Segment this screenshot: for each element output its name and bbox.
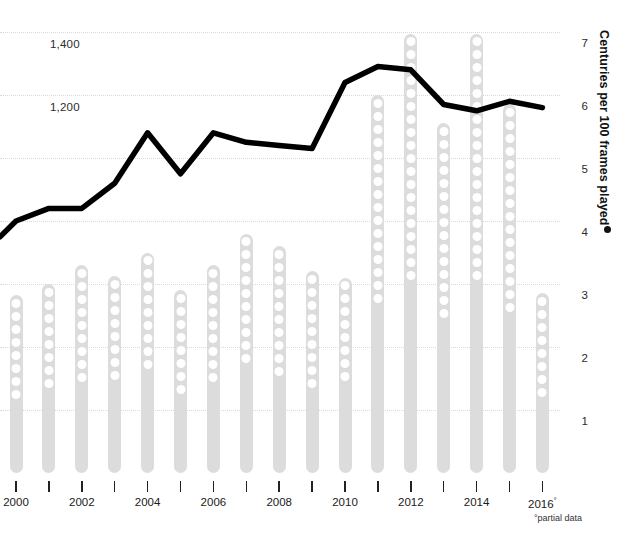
bar-dot (406, 193, 415, 202)
bar-dot (472, 193, 481, 202)
bar-dot (373, 99, 382, 108)
x-tick-2002 (81, 481, 83, 492)
bar-dot (538, 336, 547, 345)
bar-dot (77, 269, 86, 278)
bar-dot (406, 128, 415, 137)
bar-2008 (273, 246, 286, 473)
bar-dot (308, 366, 317, 375)
bar-dot (373, 125, 382, 134)
bar-dot (538, 349, 547, 358)
bar-dot (44, 314, 53, 323)
bar-dot (12, 325, 21, 334)
bar-2015 (503, 104, 516, 473)
bar-dot (472, 128, 481, 137)
bar-dot (505, 160, 514, 169)
x-tick-2007 (246, 481, 248, 492)
bar-dot (110, 293, 119, 302)
bar-dot (406, 167, 415, 176)
bar-dot (373, 255, 382, 264)
x-tick-2000 (15, 481, 17, 492)
bar-dot (275, 263, 284, 272)
bar-dot (472, 219, 481, 228)
bar-dot (472, 258, 481, 267)
bar-dot (176, 333, 185, 342)
bar-dot (341, 320, 350, 329)
bar-dot (472, 63, 481, 72)
bar-dot (242, 289, 251, 298)
bar-dot (242, 354, 251, 363)
bar-dot (12, 390, 21, 399)
bar-dot (308, 288, 317, 297)
bar-dot (275, 289, 284, 298)
plot-area: 1,400 1,200 1234567 Centuries per 100 fr… (0, 0, 640, 541)
bar-dot (242, 341, 251, 350)
bar-dot (12, 364, 21, 373)
bar-dot (439, 309, 448, 318)
x-tick-2014 (476, 481, 478, 492)
x-axis-label-2006: 2006 (201, 496, 227, 508)
bar-dot (209, 321, 218, 330)
bar-2011 (371, 95, 384, 473)
bar-dot (143, 347, 152, 356)
bar-2006 (207, 265, 220, 473)
bar-dot (308, 353, 317, 362)
bar-dot (275, 328, 284, 337)
bar-dot (176, 346, 185, 355)
x-axis-label-2000: 2000 (3, 496, 29, 508)
bar-dot (275, 315, 284, 324)
x-axis-label-2016: 2016° (528, 496, 557, 510)
bar-dot (538, 323, 547, 332)
bar-dot (143, 295, 152, 304)
bar-dot (406, 102, 415, 111)
bar-dot (406, 258, 415, 267)
bar-dot (406, 232, 415, 241)
bar-dot (341, 294, 350, 303)
bar-dot (110, 319, 119, 328)
bar-dot (505, 134, 514, 143)
x-tick-2008 (278, 481, 280, 492)
bar-dot (406, 154, 415, 163)
bar-dot (439, 127, 448, 136)
bar-dot (406, 89, 415, 98)
bar-dot (505, 121, 514, 130)
bar-dot (341, 281, 350, 290)
bar-dot (439, 270, 448, 279)
x-tick-2010 (344, 481, 346, 492)
bar-dot (242, 328, 251, 337)
bar-dot (472, 245, 481, 254)
x-tick-2004 (147, 481, 149, 492)
bar-2014 (470, 34, 483, 473)
bar-dot (176, 385, 185, 394)
bar-dot (373, 294, 382, 303)
bar-dot (406, 180, 415, 189)
bar-dot (406, 50, 415, 59)
bar-dot (439, 231, 448, 240)
bar-dot (505, 238, 514, 247)
bar-2000 (10, 295, 23, 473)
bar-dot (209, 282, 218, 291)
bar-dot (341, 372, 350, 381)
bar-dot (209, 334, 218, 343)
bar-dot (12, 299, 21, 308)
bar-dot (505, 147, 514, 156)
bar-dot (341, 359, 350, 368)
bar-2001 (42, 284, 55, 473)
bar-dot (505, 212, 514, 221)
bar-dot (373, 138, 382, 147)
bar-2013 (437, 123, 450, 473)
bar-dot (143, 256, 152, 265)
bar-dot (472, 102, 481, 111)
bar-dot (472, 232, 481, 241)
x-axis-label-2008: 2008 (266, 496, 292, 508)
bar-dot (242, 315, 251, 324)
bar-dot (77, 295, 86, 304)
bar-dot (439, 166, 448, 175)
bar-dot (209, 373, 218, 382)
bar-dot (12, 338, 21, 347)
bar-dot (44, 340, 53, 349)
bar-dot (242, 276, 251, 285)
bar-dot (12, 351, 21, 360)
bar-dot (110, 280, 119, 289)
right-axis-label-7: 7 (566, 37, 588, 49)
x-tick-2013 (443, 481, 445, 492)
